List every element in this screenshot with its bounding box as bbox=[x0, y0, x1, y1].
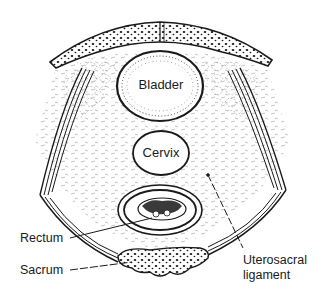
uterosacral-ligament-label-line2: ligament bbox=[243, 268, 290, 282]
bladder-label-wrap: Bladder bbox=[124, 77, 198, 95]
cervix-label: Cervix bbox=[130, 145, 192, 160]
sacrum-leader-line bbox=[70, 262, 132, 270]
rectum-label: Rectum bbox=[20, 231, 63, 245]
sacrum-label: Sacrum bbox=[20, 263, 63, 277]
bladder-label: Bladder bbox=[124, 77, 198, 92]
rectum bbox=[118, 185, 202, 235]
uterosacral-ligament-label-line1: Uterosacral bbox=[243, 253, 307, 267]
cervix-label-wrap: Cervix bbox=[130, 145, 192, 163]
